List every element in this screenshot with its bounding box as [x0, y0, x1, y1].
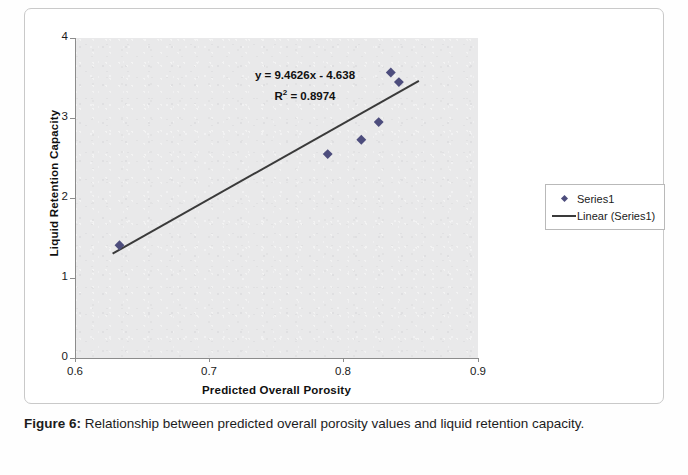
line-marker-icon — [551, 215, 577, 217]
chart-legend: Series1 Linear (Series1) — [545, 184, 665, 230]
series1-points — [115, 68, 404, 251]
legend-item-linear-series1[interactable]: Linear (Series1) — [551, 207, 658, 224]
figure-caption: Figure 6: Relationship between predicted… — [24, 414, 664, 433]
data-point — [394, 77, 404, 87]
caption-text: Relationship between predicted overall p… — [81, 416, 584, 431]
data-overlay — [25, 9, 545, 405]
chart-area: 4 3 2 1 0 0.6 0.7 0.8 0.9 Predicted Over… — [25, 9, 545, 405]
data-point — [374, 117, 384, 127]
trendline — [113, 81, 419, 254]
legend-item-series1[interactable]: Series1 — [551, 190, 658, 207]
figure-number: Figure 6: — [24, 416, 81, 431]
data-point — [323, 149, 333, 159]
legend-label-linear-series1: Linear (Series1) — [577, 210, 655, 222]
diamond-marker-icon — [551, 196, 577, 201]
legend-label-series1: Series1 — [577, 193, 614, 205]
data-point — [356, 135, 366, 145]
figure-frame: 4 3 2 1 0 0.6 0.7 0.8 0.9 Predicted Over… — [24, 8, 664, 404]
data-point — [386, 68, 396, 78]
